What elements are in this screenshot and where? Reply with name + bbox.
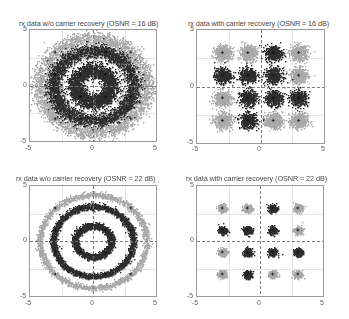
x-tick-max: 5 xyxy=(320,299,324,306)
y-tick-max: 5 xyxy=(23,25,27,32)
y-tick-mid: 0 xyxy=(190,236,194,243)
y-tick-min: -5 xyxy=(20,137,26,144)
scatter-canvas xyxy=(30,30,156,141)
plot-area xyxy=(29,29,157,142)
x-tick-min: -5 xyxy=(192,145,198,152)
x-tick-min: -5 xyxy=(25,144,31,151)
y-tick-min: -5 xyxy=(20,292,26,299)
y-tick-max: 5 xyxy=(190,25,194,32)
x-tick-min: -5 xyxy=(192,299,198,306)
y-tick-mid: 0 xyxy=(190,82,194,89)
y-tick-min: -5 xyxy=(187,292,193,299)
x-tick-mid: 0 xyxy=(90,299,94,306)
plot-area xyxy=(196,185,324,297)
chart-title: rx data w/o carrier recovery (OSNR = 16 … xyxy=(19,19,158,28)
y-tick-max: 5 xyxy=(190,181,194,188)
chart-title: rx data with carrier recovery (OSNR = 22… xyxy=(186,174,327,183)
scatter-canvas xyxy=(30,186,156,296)
y-tick-mid: 0 xyxy=(23,81,27,88)
scatter-canvas xyxy=(197,186,323,296)
scatter-canvas xyxy=(197,30,324,143)
y-tick-mid: 0 xyxy=(23,236,27,243)
x-tick-mid: 0 xyxy=(257,145,261,152)
x-tick-min: -5 xyxy=(25,299,31,306)
plot-area xyxy=(196,29,325,144)
y-tick-min: -5 xyxy=(187,138,193,145)
x-tick-max: 5 xyxy=(153,299,157,306)
x-tick-mid: 0 xyxy=(90,144,94,151)
chart-title: rx data w/o carrier recovery (OSNR = 22 … xyxy=(16,174,155,183)
x-tick-mid: 0 xyxy=(257,299,261,306)
x-tick-max: 5 xyxy=(321,145,325,152)
plot-area xyxy=(29,185,157,297)
x-tick-max: 5 xyxy=(153,144,157,151)
chart-title: rx data with carrier recovery (OSNR = 16… xyxy=(188,19,329,28)
y-tick-max: 5 xyxy=(23,181,27,188)
